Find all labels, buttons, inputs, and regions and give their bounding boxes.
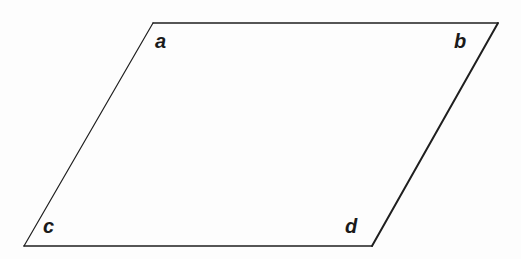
vertex-label-b: b: [454, 31, 466, 51]
vertex-label-c: c: [43, 216, 54, 236]
vertex-label-a: a: [155, 31, 166, 51]
parallelogram-svg: [0, 0, 521, 259]
parallelogram-shape: [24, 23, 498, 246]
figure-canvas: a b d c: [0, 0, 521, 259]
edge-bd: [372, 23, 498, 246]
vertex-label-d: d: [345, 216, 357, 236]
edge-ca: [24, 23, 153, 246]
